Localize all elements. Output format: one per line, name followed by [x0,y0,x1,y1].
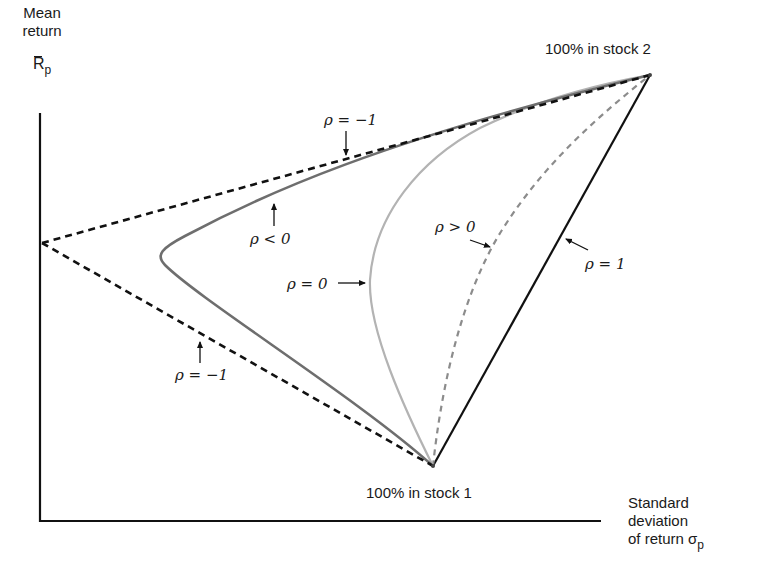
y-axis-title-line1: Mean [12,4,72,22]
label-rho-neg1-top: ρ = −1 [324,111,377,129]
y-axis-title: Mean return [12,4,72,40]
label-rho-one: ρ = 1 [585,255,625,273]
y-axis-symbol-r: R [33,55,45,73]
curve-rho-neg1-upper [42,75,650,243]
x-axis-title-line1: Standard [628,494,704,512]
label-rho-positive: ρ > 0 [435,218,475,236]
x-axis-title: Standard deviation of return σp [628,494,704,549]
label-stock1: 100% in stock 1 [366,484,472,502]
point-stock1 [431,464,435,468]
label-rho-zero: ρ = 0 [287,275,327,293]
arrow-rho-pos [470,240,490,247]
label-rho-negative: ρ < 0 [250,230,290,248]
label-stock2: 100% in stock 2 [545,40,651,58]
y-axis-title-line2: return [12,22,72,40]
y-axis-symbol-sub: p [45,63,52,77]
arrow-rho-one [566,239,588,250]
x-axis-title-line3: of return σp [628,530,704,549]
label-rho-neg1-bottom: ρ = −1 [175,366,228,384]
y-axis-symbol: Rp [33,55,51,74]
x-axis-symbol-sub: p [697,538,704,552]
point-stock2 [648,73,652,77]
x-axis-title-line3-text: of return σ [628,530,697,547]
curve-rho-neg1-lower [42,243,433,466]
x-axis-title-line2: deviation [628,512,704,530]
